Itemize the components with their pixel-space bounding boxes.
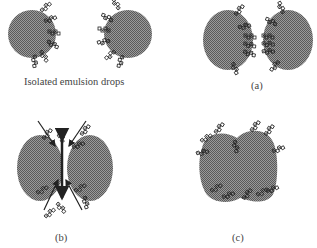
caption-panel-c: (c) [232, 232, 244, 243]
emulsion-diagram [0, 0, 317, 248]
isolated-drop-right [97, 0, 152, 68]
caption-panel-a: (a) [251, 80, 263, 91]
caption-panel-b: (b) [55, 232, 67, 243]
caption-isolated-drops: Isolated emulsion drops [24, 76, 124, 87]
panel-a-drops [203, 1, 313, 75]
panel-c-merged-drop [196, 120, 285, 202]
isolated-drop-left [8, 1, 60, 68]
panel-b-drops [17, 124, 113, 220]
